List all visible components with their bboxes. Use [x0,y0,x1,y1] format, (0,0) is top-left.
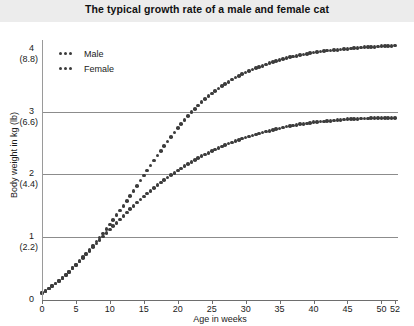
x-tick-label-20: 20 [165,304,191,314]
x-tick-label-30: 30 [233,304,259,314]
x-tick-label-15: 15 [131,304,157,314]
y-axis-line [42,40,43,301]
data-point-female [108,228,112,232]
data-point-male [186,114,190,118]
data-point-female [91,245,95,249]
plot-area [42,40,398,300]
y-axis-tick-labels: 4(8.8)3(6.6)2(4.4)1(2.2)0 [0,40,40,301]
data-point-male [122,204,126,208]
growth-rate-chart: The typical growth rate of a male and fe… [0,0,414,326]
data-point-female [139,198,143,202]
data-point-male [166,140,170,144]
y-tick-label-3: 3(6.6) [0,106,40,128]
x-tick-label-45: 45 [334,304,360,314]
data-point-female [67,270,71,274]
data-point-male [200,100,204,104]
data-point-male [393,44,397,48]
gridline-y-3 [42,112,398,113]
data-point-male [162,144,166,148]
x-axis-title: Age in weeks [42,314,398,324]
data-point-female [74,263,78,267]
x-tick-label-52: 52 [382,304,408,314]
y-tick-lb-2: (4.4) [0,179,40,190]
data-point-female [125,211,129,215]
data-point-male [135,184,139,188]
x-tick-label-35: 35 [267,304,293,314]
data-point-female [142,195,146,199]
data-point-male [213,89,217,93]
data-point-male [190,110,194,114]
data-point-male [142,174,146,178]
x-tick-label-25: 25 [199,304,225,314]
data-point-female [81,256,85,260]
data-point-male [118,209,122,213]
data-point-female [115,221,119,225]
data-point-female [135,201,139,205]
data-point-male [128,194,132,198]
y-tick-kg-2: 2 [0,168,40,179]
data-point-male [156,154,160,158]
data-point-female [78,260,82,264]
data-point-male [152,159,156,163]
data-point-male [183,118,187,122]
y-tick-kg-4: 4 [0,43,40,54]
data-point-female [57,279,61,283]
data-point-female [84,253,88,257]
data-point-male [207,94,211,98]
y-tick-label-2: 2(4.4) [0,168,40,190]
data-point-female [50,284,54,288]
y-tick-lb-4: (8.8) [0,54,40,65]
data-point-male [115,213,119,217]
data-point-male [125,199,129,203]
data-point-male [196,104,200,108]
y-tick-kg-3: 3 [0,106,40,117]
y-tick-kg-1: 1 [0,231,40,242]
y-axis-title: Body weight in kg (lb) [9,85,19,225]
data-point-male [193,107,197,111]
data-point-female [111,224,115,228]
data-point-female [162,178,166,182]
y-tick-lb-3: (6.6) [0,117,40,128]
data-point-female [95,242,99,246]
data-point-female [132,204,136,208]
x-axis-line [42,300,398,301]
x-tick-label-10: 10 [97,304,123,314]
data-point-female [105,231,109,235]
data-point-male [132,189,136,193]
gridline-y-2 [42,174,398,175]
gridline-y-1 [42,237,398,238]
chart-title: The typical growth rate of a male and fe… [0,3,414,15]
data-point-female [393,116,397,120]
data-point-female [71,266,75,270]
x-tick-label-5: 5 [63,304,89,314]
data-point-female [64,273,68,277]
data-point-female [61,276,65,280]
data-point-female [128,207,132,211]
data-point-female [152,186,156,190]
data-point-female [98,238,102,242]
y-tick-lb-1: (2.2) [0,242,40,253]
y-tick-label-1: 1(2.2) [0,231,40,253]
x-tick-label-40: 40 [301,304,327,314]
data-point-male [149,164,153,168]
data-point-male [139,179,143,183]
y-tick-label-4: 4(8.8) [0,43,40,65]
data-point-male [169,135,173,139]
data-point-male [145,169,149,173]
data-point-male [179,122,183,126]
data-point-female [118,218,122,222]
data-point-female [88,249,92,253]
data-point-male [176,126,180,130]
data-point-male [159,149,163,153]
data-point-female [122,214,126,218]
data-point-male [173,131,177,135]
data-point-female [156,183,160,187]
x-tick-label-0: 0 [29,304,55,314]
data-point-male [203,97,207,101]
